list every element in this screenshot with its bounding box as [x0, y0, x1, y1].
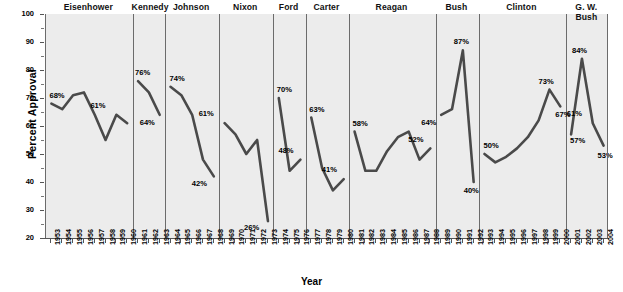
y-tick-mark [40, 70, 44, 71]
series-line-ford [279, 98, 301, 171]
y-tick-mark [40, 182, 44, 183]
x-tick-mark [234, 239, 235, 243]
x-tick-mark [105, 239, 106, 243]
y-tick-mark-minor [41, 140, 44, 141]
series-line-johnson [171, 87, 214, 177]
x-tick-mark [592, 239, 593, 243]
y-tick-mark [40, 14, 44, 15]
y-tick-label: 40 [8, 178, 34, 186]
panel-label-bush: Bush [435, 3, 478, 13]
data-label: 84% [572, 46, 587, 55]
x-tick-mark [419, 239, 420, 243]
series-line-kennedy [138, 81, 160, 115]
data-label: 70% [277, 85, 292, 94]
x-tick-mark [473, 239, 474, 243]
panel-label-kennedy: Kennedy [132, 3, 164, 13]
data-label: 87% [454, 37, 469, 46]
x-tick-mark [224, 239, 225, 243]
y-tick-mark [40, 210, 44, 211]
x-tick-mark [332, 239, 333, 243]
x-tick-mark [72, 239, 73, 243]
x-tick-mark [148, 239, 149, 243]
x-tick-mark [483, 239, 484, 243]
x-tick-mark [559, 239, 560, 243]
x-tick-mark [375, 239, 376, 243]
data-label: 76% [135, 68, 150, 77]
data-label: 61% [199, 109, 214, 118]
data-label: 61% [90, 101, 105, 110]
y-tick-mark [40, 126, 44, 127]
y-tick-label: 90 [8, 38, 34, 46]
x-tick-mark [408, 239, 409, 243]
y-tick-mark-minor [41, 196, 44, 197]
data-label: 61% [567, 109, 582, 118]
y-tick-label: 80 [8, 66, 34, 74]
y-tick-label: 30 [8, 206, 34, 214]
y-tick-mark-minor [41, 112, 44, 113]
y-tick-label: 50 [8, 150, 34, 158]
data-label: 74% [170, 74, 185, 83]
x-tick-mark [527, 239, 528, 243]
plot-right-border [607, 14, 608, 238]
y-tick-mark-minor [41, 224, 44, 225]
approval-lines [46, 14, 609, 238]
x-tick-mark [213, 239, 214, 243]
y-tick-mark [40, 98, 44, 99]
y-tick-mark-minor [41, 84, 44, 85]
x-tick-mark [581, 239, 582, 243]
y-tick-mark-minor [41, 28, 44, 29]
data-label: 48% [278, 146, 293, 155]
x-tick-mark [548, 239, 549, 243]
x-tick-mark [50, 239, 51, 243]
data-label: 41% [322, 165, 337, 174]
y-tick-label: 20 [8, 234, 34, 242]
y-tick-mark-minor [41, 168, 44, 169]
data-label: 64% [140, 118, 155, 127]
x-tick-mark [364, 239, 365, 243]
panel-label-carter: Carter [305, 3, 348, 13]
data-label: 50% [483, 141, 498, 150]
data-label: 73% [538, 77, 553, 86]
x-tick-mark [61, 239, 62, 243]
panel-label-reagan: Reagan [348, 3, 435, 13]
x-tick-mark [170, 239, 171, 243]
x-tick-mark [202, 239, 203, 243]
x-tick-mark [462, 239, 463, 243]
data-label: 53% [598, 151, 613, 160]
y-tick-mark-minor [41, 56, 44, 57]
x-tick-mark [126, 239, 127, 243]
panel-label-ford: Ford [272, 3, 304, 13]
x-tick-mark [440, 239, 441, 243]
data-label: 52% [408, 135, 423, 144]
x-tick-mark [386, 239, 387, 243]
series-line-nixon [225, 123, 268, 221]
x-tick-mark [310, 239, 311, 243]
x-axis-title: Year [0, 276, 623, 287]
panel-label-nixon: Nixon [218, 3, 272, 13]
x-tick-mark [191, 239, 192, 243]
data-label: 42% [192, 179, 207, 188]
x-tick-mark [83, 239, 84, 243]
y-tick-label: 100 [8, 10, 34, 18]
data-label: 64% [421, 118, 436, 127]
x-tick-mark [180, 239, 181, 243]
chart-root: Percent Approval Year 203040506070809010… [0, 0, 623, 292]
series-line-carter [311, 118, 343, 191]
y-tick-label: 70 [8, 94, 34, 102]
y-tick-mark [40, 42, 44, 43]
data-label: 63% [309, 105, 324, 114]
x-tick-mark [94, 239, 95, 243]
x-tick-label: 2004 [606, 229, 615, 245]
x-tick-mark [397, 239, 398, 243]
x-tick-mark [267, 239, 268, 243]
x-tick-mark [494, 239, 495, 243]
x-tick-mark [278, 239, 279, 243]
panel-label-eisenhower: Eisenhower [45, 3, 132, 13]
x-tick-mark [354, 239, 355, 243]
x-tick-mark [516, 239, 517, 243]
x-tick-mark [115, 239, 116, 243]
series-line-bush [441, 50, 473, 182]
x-tick-mark [451, 239, 452, 243]
data-label: 40% [464, 186, 479, 195]
series-line-g-w-bush [571, 59, 603, 146]
